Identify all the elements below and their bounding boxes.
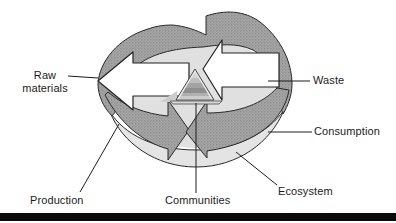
label-raw-materials: Rawmaterials — [17, 69, 73, 95]
leader-ecosystem — [236, 152, 277, 185]
label-ecosystem: Ecosystem — [278, 185, 333, 198]
label-communities: Communities — [165, 194, 230, 207]
label-raw-materials-line1: Raw — [34, 69, 56, 81]
cycle-diagram — [0, 0, 396, 223]
label-raw-materials-line2: materials — [22, 82, 68, 94]
figure-canvas: Rawmaterials Waste Consumption Ecosystem… — [0, 0, 396, 223]
label-production: Production — [30, 194, 84, 207]
label-waste: Waste — [313, 74, 344, 87]
leader-production — [80, 124, 119, 192]
bottom-rule — [0, 213, 396, 221]
label-consumption: Consumption — [314, 125, 380, 138]
